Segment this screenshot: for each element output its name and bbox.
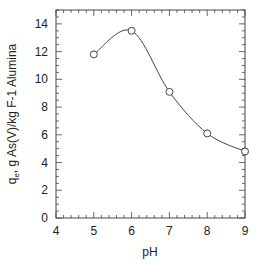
data-point-marker bbox=[90, 51, 97, 58]
y-tick-label: 14 bbox=[35, 17, 49, 31]
x-tick-label: 8 bbox=[204, 224, 211, 238]
y-axis-label: qe, g As(V)/kg F-1 Alumina bbox=[5, 43, 21, 184]
x-axis-label: pH bbox=[142, 245, 157, 259]
y-tick-label: 2 bbox=[41, 183, 48, 197]
x-tick-label: 6 bbox=[128, 224, 135, 238]
x-tick-label: 9 bbox=[242, 224, 249, 238]
y-tick-label: 8 bbox=[41, 100, 48, 114]
data-point-marker bbox=[242, 148, 249, 155]
y-tick-label: 10 bbox=[35, 72, 49, 86]
plot-area: 45678902468101214 bbox=[35, 10, 249, 238]
y-tick-label: 12 bbox=[35, 45, 49, 59]
y-tick-label: 4 bbox=[41, 156, 48, 170]
y-tick-label: 0 bbox=[41, 211, 48, 225]
data-point-marker bbox=[166, 88, 173, 95]
data-point-marker bbox=[128, 27, 135, 34]
chart: 45678902468101214 pH qe, g As(V)/kg F-1 … bbox=[0, 0, 258, 264]
data-point-marker bbox=[204, 130, 211, 137]
plot-frame bbox=[56, 10, 245, 218]
x-tick-label: 5 bbox=[90, 224, 97, 238]
x-tick-label: 7 bbox=[166, 224, 173, 238]
x-tick-label: 4 bbox=[53, 224, 60, 238]
y-tick-label: 6 bbox=[41, 128, 48, 142]
